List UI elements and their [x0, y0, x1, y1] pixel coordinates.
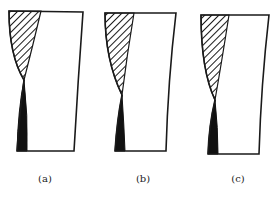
panel-b: [105, 13, 176, 151]
panel-c: [201, 15, 269, 154]
hatched-region-c: [201, 15, 229, 100]
hatched-region-a: [9, 11, 41, 80]
panel-a: [9, 11, 83, 151]
panel-label-b: (b): [136, 173, 150, 184]
panel-label-c: (c): [231, 173, 244, 184]
panel-label-a: (a): [38, 173, 52, 184]
diagram-canvas: [0, 0, 274, 197]
